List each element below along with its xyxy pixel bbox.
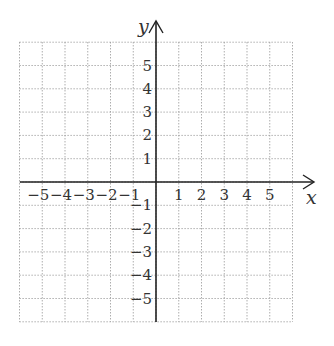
x-tick-label: −5 <box>27 186 49 204</box>
x-tick-label: 2 <box>197 186 207 204</box>
y-tick-label: 1 <box>142 150 152 168</box>
y-axis-label: y <box>137 15 149 37</box>
y-tick-label: 2 <box>142 126 152 144</box>
y-tick-label: −3 <box>130 243 152 261</box>
x-axis-label: x <box>306 186 317 208</box>
y-tick-label: 5 <box>142 57 152 75</box>
x-tick-label: 4 <box>242 186 252 204</box>
x-tick-label: 3 <box>219 186 229 204</box>
y-tick-label: 4 <box>142 80 152 98</box>
x-tick-label: −4 <box>50 186 72 204</box>
y-tick-label: −4 <box>130 266 152 284</box>
y-tick-label: 3 <box>142 103 152 121</box>
x-tick-label: 5 <box>265 186 275 204</box>
y-tick-label: −1 <box>130 196 152 214</box>
y-tick-label: −5 <box>130 290 152 308</box>
coordinate-plane: x y −5−4−3−2−112345 54321−1−2−3−4−5 <box>0 0 334 346</box>
x-tick-label: −3 <box>73 186 95 204</box>
x-tick-label: −2 <box>95 186 117 204</box>
x-tick-label: 1 <box>174 186 184 204</box>
y-tick-label: −2 <box>130 220 152 238</box>
